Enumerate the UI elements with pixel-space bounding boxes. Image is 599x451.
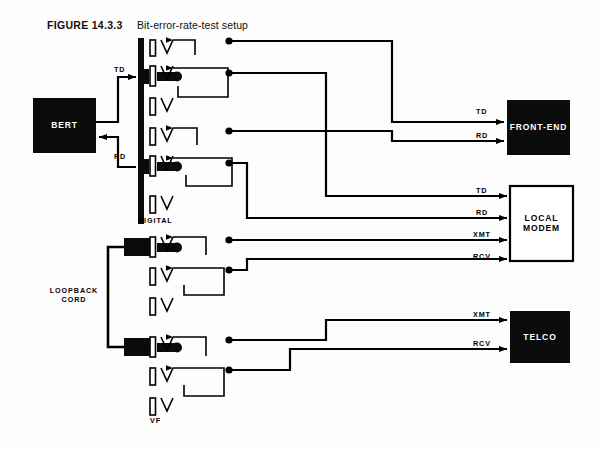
digital-jack-5-with-plug bbox=[144, 156, 182, 176]
signal-label-telco-xmt: XMT bbox=[473, 310, 491, 319]
link-digital-2 bbox=[173, 68, 228, 97]
signal-label-modem-td: TD bbox=[476, 186, 487, 195]
signal-label-modem-rcv: RCV bbox=[473, 252, 491, 261]
wire-bert-td bbox=[96, 77, 136, 122]
signal-label-bert-td: TD bbox=[114, 65, 125, 74]
vf-jack-5 bbox=[150, 368, 173, 385]
tie-points bbox=[225, 37, 232, 373]
loopback-cord bbox=[108, 247, 124, 347]
loopback-cord-caption: LOOPBACK CORD bbox=[43, 286, 105, 304]
digital-panel-rail bbox=[138, 38, 144, 224]
signal-label-bert-rd: RD bbox=[114, 152, 126, 161]
wire-telco-xmt bbox=[229, 320, 507, 340]
wire-frontend-td bbox=[229, 41, 504, 122]
signal-label-telco-rcv: RCV bbox=[473, 339, 491, 348]
vf-jack-4-with-plug bbox=[124, 337, 182, 357]
link-digital-3 bbox=[173, 128, 197, 145]
panel-caption-digital: DIGITAL bbox=[138, 216, 173, 225]
wire-frontend-rd bbox=[229, 131, 504, 141]
block-label-front-end: FRONT-END bbox=[507, 122, 570, 132]
link-digital-1 bbox=[173, 40, 195, 55]
vf-jack-3 bbox=[150, 298, 173, 315]
digital-jack-3 bbox=[150, 98, 173, 115]
digital-jack-2-with-plug bbox=[144, 66, 182, 86]
signal-label-frontend-rd: RD bbox=[476, 131, 488, 140]
vf-jack-6 bbox=[150, 398, 173, 415]
signal-label-frontend-td: TD bbox=[476, 107, 487, 116]
panel-caption-vf: VF bbox=[150, 416, 161, 425]
digital-jack-4 bbox=[150, 128, 173, 145]
block-label-telco: TELCO bbox=[510, 332, 570, 342]
block-label-local-modem: LOCAL MODEM bbox=[510, 213, 573, 233]
wire-modem-rd bbox=[229, 163, 507, 218]
vf-jack-1-with-plug bbox=[124, 237, 182, 257]
figure-number: FIGURE 14.3.3 bbox=[47, 19, 123, 31]
link-vf-2 bbox=[173, 268, 224, 295]
block-label-bert: BERT bbox=[33, 120, 96, 130]
link-vf-4 bbox=[173, 368, 224, 396]
figure-title: Bit-error-rate-test setup bbox=[137, 19, 248, 31]
link-digital-4 bbox=[173, 158, 232, 186]
signal-label-modem-xmt: XMT bbox=[473, 230, 491, 239]
signal-label-modem-rd: RD bbox=[476, 208, 488, 217]
wire-telco-rcv bbox=[229, 349, 507, 370]
figure-canvas: FIGURE 14.3.3 Bit-error-rate-test setup … bbox=[0, 0, 599, 451]
wire-modem-rcv bbox=[229, 259, 507, 270]
wire-modem-td bbox=[229, 73, 507, 196]
digital-jack-1 bbox=[150, 40, 173, 56]
digital-jack-6 bbox=[150, 196, 173, 213]
vf-jack-2 bbox=[150, 268, 173, 285]
